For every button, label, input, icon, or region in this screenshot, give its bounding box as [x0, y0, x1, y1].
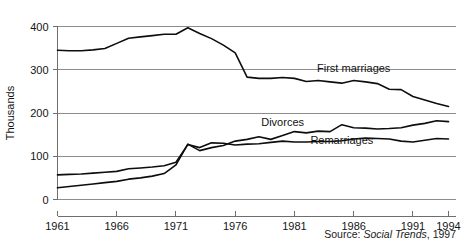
- data-series-lines: [58, 28, 449, 188]
- x-axis: [58, 211, 456, 216]
- y-tick-marks: [53, 27, 58, 200]
- source-publication: Social Trends: [363, 228, 426, 240]
- x-tick-label: 1981: [282, 220, 306, 232]
- y-axis-title-text: Thousands: [4, 85, 16, 140]
- gridlines: [58, 27, 456, 200]
- y-tick-label: 0: [42, 194, 48, 206]
- series-line-divorces: [58, 121, 449, 188]
- series-inline-labels: First marriagesDivorcesRemarriages: [261, 62, 391, 146]
- series-label-divorces: Divorces: [261, 116, 304, 128]
- y-axis-title: Thousands: [4, 85, 16, 140]
- x-tick-label: 1971: [164, 220, 188, 232]
- y-tick-label: 200: [30, 107, 48, 119]
- y-tick-label: 100: [30, 150, 48, 162]
- y-tick-label: 300: [30, 64, 48, 76]
- series-label-first-marriages: First marriages: [317, 62, 391, 74]
- line-chart: 0100200300400 19611966197119761981198619…: [0, 0, 464, 244]
- source-year: , 1997: [427, 228, 456, 240]
- x-tick-label: 1961: [45, 220, 69, 232]
- y-tick-labels: 0100200300400: [30, 21, 48, 206]
- x-tick-label: 1966: [105, 220, 129, 232]
- x-tick-label: 1976: [223, 220, 247, 232]
- source-note: Source: Social Trends, 1997: [324, 228, 456, 240]
- source-prefix: Source:: [324, 228, 360, 240]
- y-tick-label: 400: [30, 21, 48, 33]
- series-label-remarriages: Remarriages: [310, 134, 373, 146]
- chart-page: 0100200300400 19611966197119761981198619…: [0, 0, 464, 244]
